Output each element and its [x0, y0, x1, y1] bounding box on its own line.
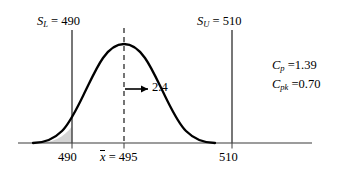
upper-spec-limit-value: = 510	[213, 14, 242, 28]
lower-spec-limit-label: SL = 490	[37, 15, 80, 29]
tick-label-510: 510	[219, 151, 238, 164]
cpk-subscript: pk	[280, 82, 288, 92]
upper-spec-limit-label: SU = 510	[197, 15, 241, 29]
cpk-value: =0.70	[292, 77, 321, 91]
cpk-index-label: Cpk =0.70	[272, 78, 320, 92]
cp-index-label: Cp =1.39	[272, 59, 317, 73]
mean-symbol: x	[100, 151, 106, 164]
process-capability-figure: SL = 490 SU = 510 2.4 Cp =1.39 Cpk =0.70…	[0, 0, 352, 181]
tick-label-mean: x = 495	[100, 151, 138, 164]
sigma-arrow-head	[141, 86, 148, 93]
lower-spec-limit-subscript: L	[43, 19, 48, 29]
upper-spec-limit-subscript: U	[203, 19, 209, 29]
lower-spec-limit-value: = 490	[51, 14, 80, 28]
out-of-spec-tail-shading	[33, 127, 72, 144]
mean-value: = 495	[109, 150, 138, 164]
cp-value: =1.39	[288, 58, 317, 72]
tick-label-490: 490	[58, 151, 77, 164]
sigma-annotation-label: 2.4	[152, 81, 168, 94]
cp-subscript: p	[280, 63, 284, 73]
